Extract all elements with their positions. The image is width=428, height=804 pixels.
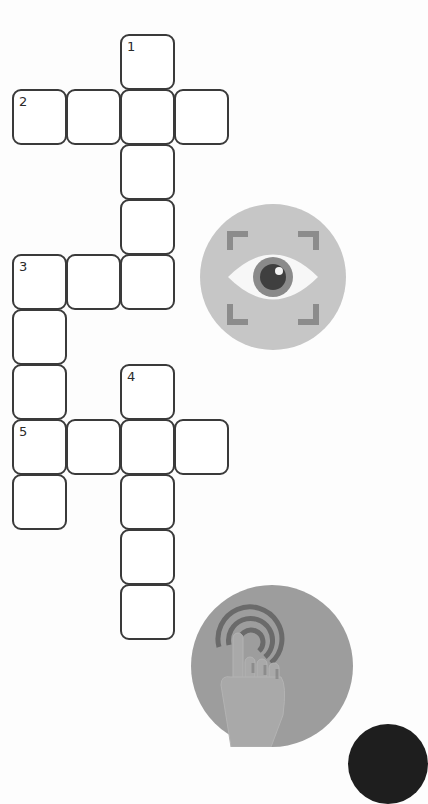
eye-scan-icon — [200, 204, 346, 350]
crossword-cell[interactable] — [66, 254, 121, 310]
crossword-cell[interactable] — [120, 584, 175, 640]
cell-input[interactable] — [176, 421, 227, 473]
cell-input[interactable] — [14, 91, 65, 143]
crossword-cell[interactable] — [120, 144, 175, 200]
touch-tap-badge — [191, 585, 353, 747]
cell-input[interactable] — [68, 421, 119, 473]
cell-input[interactable] — [14, 476, 65, 528]
crossword-cell[interactable] — [120, 199, 175, 255]
cell-input[interactable] — [14, 366, 65, 418]
cell-input[interactable] — [122, 36, 173, 88]
crossword-cell[interactable] — [174, 419, 229, 475]
cell-input[interactable] — [122, 586, 173, 638]
crossword-cell[interactable] — [174, 89, 229, 145]
cell-input[interactable] — [122, 476, 173, 528]
crossword-cell[interactable] — [66, 89, 121, 145]
cell-input[interactable] — [122, 366, 173, 418]
cell-input[interactable] — [122, 421, 173, 473]
cell-input[interactable] — [14, 421, 65, 473]
crossword-cell[interactable]: 4 — [120, 364, 175, 420]
touch-tap-icon — [191, 585, 353, 747]
crossword-cell[interactable]: 1 — [120, 34, 175, 90]
crossword-cell[interactable] — [120, 474, 175, 530]
crossword-cell[interactable]: 2 — [12, 89, 67, 145]
eye-scan-badge — [200, 204, 346, 350]
crossword-cell[interactable] — [120, 89, 175, 145]
crossword-cell[interactable]: 3 — [12, 254, 67, 310]
crossword-cell[interactable] — [12, 364, 67, 420]
cell-input[interactable] — [122, 201, 173, 253]
cell-input[interactable] — [68, 256, 119, 308]
cell-input[interactable] — [122, 531, 173, 583]
cell-input[interactable] — [122, 146, 173, 198]
cell-input[interactable] — [176, 91, 227, 143]
crossword-cell[interactable] — [12, 309, 67, 365]
cell-input[interactable] — [14, 256, 65, 308]
crossword-cell[interactable] — [120, 529, 175, 585]
crossword-cell[interactable] — [120, 419, 175, 475]
cell-input[interactable] — [122, 91, 173, 143]
crossword-cell[interactable]: 5 — [12, 419, 67, 475]
cell-input[interactable] — [14, 311, 65, 363]
crossword-cell[interactable] — [12, 474, 67, 530]
dark-corner-badge — [348, 724, 428, 804]
crossword-cell[interactable] — [66, 419, 121, 475]
crossword-cell[interactable] — [120, 254, 175, 310]
cell-input[interactable] — [122, 256, 173, 308]
cell-input[interactable] — [68, 91, 119, 143]
